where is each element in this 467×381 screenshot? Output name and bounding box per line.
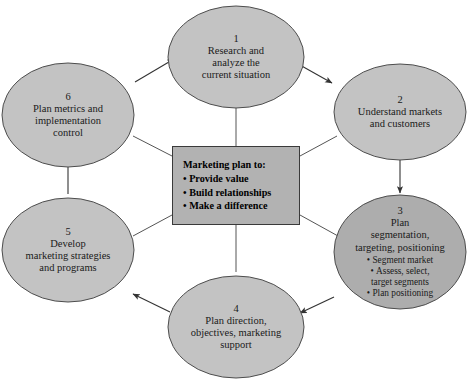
- marketing-plan-title: Marketing plan to:: [183, 158, 299, 171]
- step-node-5[interactable]: 5 Develop marketing strategies and progr…: [2, 198, 134, 302]
- step-number-3: 3: [397, 205, 402, 217]
- marketing-plan-bullet: Build relationships: [183, 186, 299, 200]
- step-number-5: 5: [65, 226, 70, 238]
- marketing-plan-bullet: Make a difference: [183, 199, 299, 213]
- marketing-planning-cycle-diagram: 1 Research and analyze the current situa…: [0, 0, 467, 381]
- step-number-2: 2: [397, 94, 402, 106]
- step-label-3: Plan segmentation, targeting, positionin…: [349, 217, 451, 254]
- step-label-1: Research and analyze the current situati…: [196, 45, 277, 82]
- step-number-4: 4: [233, 303, 238, 315]
- step-3-bullet: Segment market: [367, 255, 433, 266]
- step-3-bullet-list: Segment market Assess, select, target se…: [367, 255, 433, 299]
- step-node-6[interactable]: 6 Plan metrics and implementation contro…: [2, 63, 134, 167]
- step-node-3[interactable]: 3 Plan segmentation, targeting, position…: [334, 195, 466, 309]
- spoke-to-step-2: [300, 136, 337, 156]
- marketing-plan-bullet-list: Provide value Build relationships Make a…: [183, 172, 299, 213]
- arrow-step-3-to-4: [300, 297, 334, 313]
- step-number-6: 6: [65, 91, 70, 103]
- marketing-plan-bullet: Provide value: [183, 172, 299, 186]
- step-node-1[interactable]: 1 Research and analyze the current situa…: [168, 6, 304, 108]
- spoke-to-step-6: [133, 136, 172, 156]
- spoke-to-step-5: [133, 215, 172, 236]
- step-label-6: Plan metrics and implementation control: [27, 103, 109, 140]
- step-3-bullet: Plan positioning: [367, 288, 433, 299]
- step-label-4: Plan direction, objectives, marketing su…: [185, 315, 287, 352]
- step-node-2[interactable]: 2 Understand markets and customers: [334, 64, 466, 160]
- spoke-to-step-3: [300, 215, 338, 236]
- step-node-4[interactable]: 4 Plan direction, objectives, marketing …: [168, 276, 304, 378]
- arrow-step-4-to-5: [133, 294, 170, 312]
- marketing-plan-box: Marketing plan to: Provide value Build r…: [172, 146, 300, 225]
- step-label-2: Understand markets and customers: [352, 106, 448, 130]
- step-label-5: Develop marketing strategies and program…: [20, 238, 117, 275]
- step-number-1: 1: [233, 33, 238, 45]
- step-3-bullet: Assess, select, target segments: [367, 266, 433, 288]
